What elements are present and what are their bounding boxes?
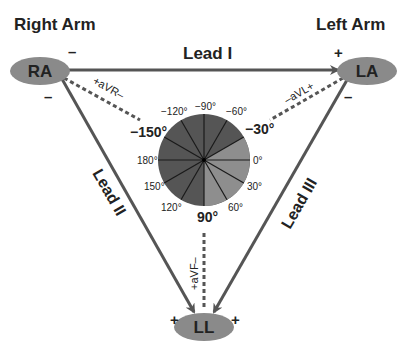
left-arm-label: Left Arm bbox=[316, 15, 385, 34]
angle-label-150: 150° bbox=[144, 181, 165, 192]
polarity-ra-bottom: – bbox=[44, 88, 52, 105]
polarity-la-top: + bbox=[334, 44, 343, 61]
angle-label-180: 180° bbox=[137, 155, 158, 166]
einthoven-triangle-diagram: Right Arm Left Arm Lead I Lead II Lead I… bbox=[0, 0, 406, 347]
angle-label-60: 60° bbox=[228, 202, 243, 213]
angle-label-minus150: −150° bbox=[130, 124, 167, 140]
axis-wheel bbox=[158, 114, 250, 206]
angle-label-minus120: −120° bbox=[161, 106, 188, 117]
polarity-ll-right: + bbox=[231, 311, 240, 328]
lead-iii-label: Lead III bbox=[278, 175, 320, 231]
right-arm-label: Right Arm bbox=[14, 15, 96, 34]
electrode-la-label: LA bbox=[356, 62, 379, 81]
electrode-ll-label: LL bbox=[194, 318, 215, 337]
electrode-ra: RA bbox=[10, 57, 70, 85]
electrode-ll: LL bbox=[174, 313, 234, 341]
electrode-ra-label: RA bbox=[28, 62, 53, 81]
angle-label-0: 0° bbox=[253, 155, 263, 166]
avf-label: +aVF– bbox=[188, 256, 200, 290]
angle-label-minus90: −90° bbox=[195, 101, 216, 112]
angle-label-minus30: −30° bbox=[245, 121, 274, 137]
polarity-ll-left: + bbox=[170, 311, 179, 328]
angle-label-120: 120° bbox=[161, 202, 182, 213]
angle-label-minus60: −60° bbox=[226, 106, 247, 117]
angle-label-30: 30° bbox=[247, 181, 262, 192]
lead-i-label: Lead I bbox=[183, 44, 232, 63]
lead-ii-label: Lead II bbox=[89, 166, 129, 218]
polarity-la-bottom: – bbox=[344, 88, 352, 105]
polarity-ra-top: – bbox=[68, 43, 76, 60]
electrode-la: LA bbox=[337, 57, 397, 85]
angle-label-90: 90° bbox=[197, 209, 218, 225]
